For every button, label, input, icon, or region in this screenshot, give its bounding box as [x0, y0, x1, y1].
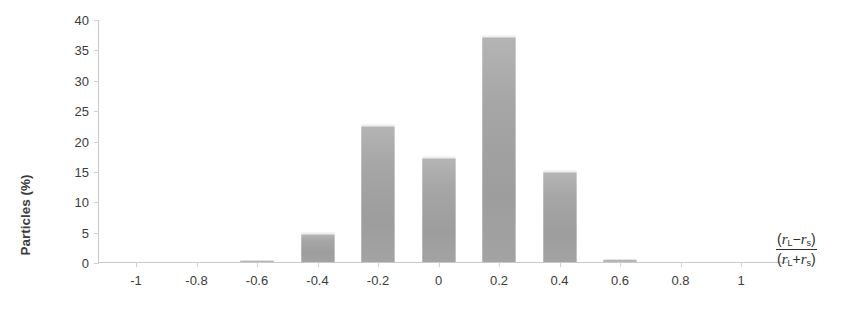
y-axis-tick — [94, 263, 99, 264]
bar — [361, 124, 395, 262]
y-axis-tick — [94, 202, 99, 203]
x-axis-tick-label: 0.4 — [550, 273, 568, 288]
y-axis-tick-label: 35 — [75, 43, 89, 58]
x-axis-tick — [439, 262, 440, 267]
bar — [482, 35, 516, 262]
x-axis-title: (rL−rs) (rL+rs) — [776, 232, 817, 269]
x-axis-tick — [318, 262, 319, 267]
y-axis-tick-label: 20 — [75, 134, 89, 149]
x-axis-tick — [741, 262, 742, 267]
x-axis-tick-label: 1 — [737, 273, 744, 288]
y-axis-tick-label: 0 — [82, 256, 89, 271]
x-axis-tick — [136, 262, 137, 267]
y-axis-tick-label: 40 — [75, 13, 89, 28]
x-axis-tick — [560, 262, 561, 267]
x-axis-title-denominator: (rL+rs) — [776, 250, 817, 268]
y-axis-tick-label: 30 — [75, 73, 89, 88]
y-axis-tick-label: 5 — [82, 225, 89, 240]
x-axis-tick — [681, 262, 682, 267]
y-axis-tick-label: 10 — [75, 195, 89, 210]
x-axis-tick — [197, 262, 198, 267]
x-axis-tick-label: -0.6 — [246, 273, 268, 288]
x-axis-tick — [257, 262, 258, 267]
bar — [422, 156, 456, 262]
y-axis-tick — [94, 172, 99, 173]
x-axis-tick-label: -0.2 — [367, 273, 389, 288]
x-axis-tick-label: -1 — [130, 273, 142, 288]
x-axis-tick-label: 0 — [435, 273, 442, 288]
bar — [603, 259, 637, 262]
x-axis-tick — [499, 262, 500, 267]
x-axis-tick-label: -0.8 — [185, 273, 207, 288]
bar — [240, 260, 274, 262]
y-axis-tick-label: 25 — [75, 104, 89, 119]
plot-area: 0510152025303540 -1-0.8-0.6-0.4-0.200.20… — [98, 20, 770, 263]
bar — [543, 170, 577, 262]
y-axis-tick — [94, 111, 99, 112]
histogram-chart: Particles (%) 0510152025303540 -1-0.8-0.… — [0, 0, 854, 309]
x-axis-tick-label: 0.8 — [671, 273, 689, 288]
x-axis-tick-label: 0.6 — [611, 273, 629, 288]
x-axis-line — [98, 262, 788, 263]
y-axis-tick-label: 15 — [75, 164, 89, 179]
x-axis-tick-label: -0.4 — [306, 273, 328, 288]
y-axis-tick — [94, 233, 99, 234]
y-axis-tick — [94, 81, 99, 82]
y-axis-tick — [94, 50, 99, 51]
y-axis-title: Particles (%) — [22, 35, 44, 215]
y-axis-tick — [94, 20, 99, 21]
x-axis-tick — [378, 262, 379, 267]
bar — [301, 232, 335, 262]
x-axis-tick-label: 0.2 — [490, 273, 508, 288]
x-axis-tick — [620, 262, 621, 267]
y-axis-title-text: Particles (%) — [18, 174, 33, 255]
y-axis-tick — [94, 142, 99, 143]
x-axis-title-numerator: (rL−rs) — [776, 232, 817, 250]
